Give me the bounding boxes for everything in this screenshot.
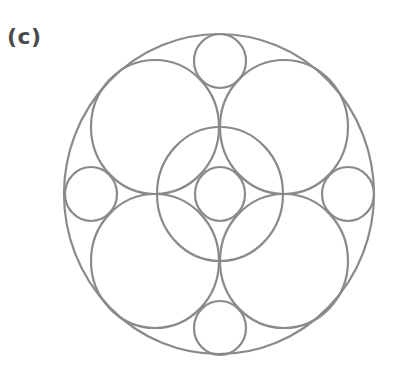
large-circle-lower-right — [220, 194, 348, 328]
outer-circle — [64, 34, 374, 354]
small-circle-top — [194, 34, 246, 88]
circle-packing-diagram — [0, 0, 396, 374]
small-circle-right — [322, 167, 374, 221]
large-circle-upper-left — [91, 60, 219, 194]
middle-circle — [157, 127, 283, 261]
center-small-circle — [195, 167, 245, 221]
small-circle-bottom — [194, 301, 246, 355]
small-circle-left — [65, 167, 117, 221]
large-circle-lower-left — [91, 194, 219, 328]
